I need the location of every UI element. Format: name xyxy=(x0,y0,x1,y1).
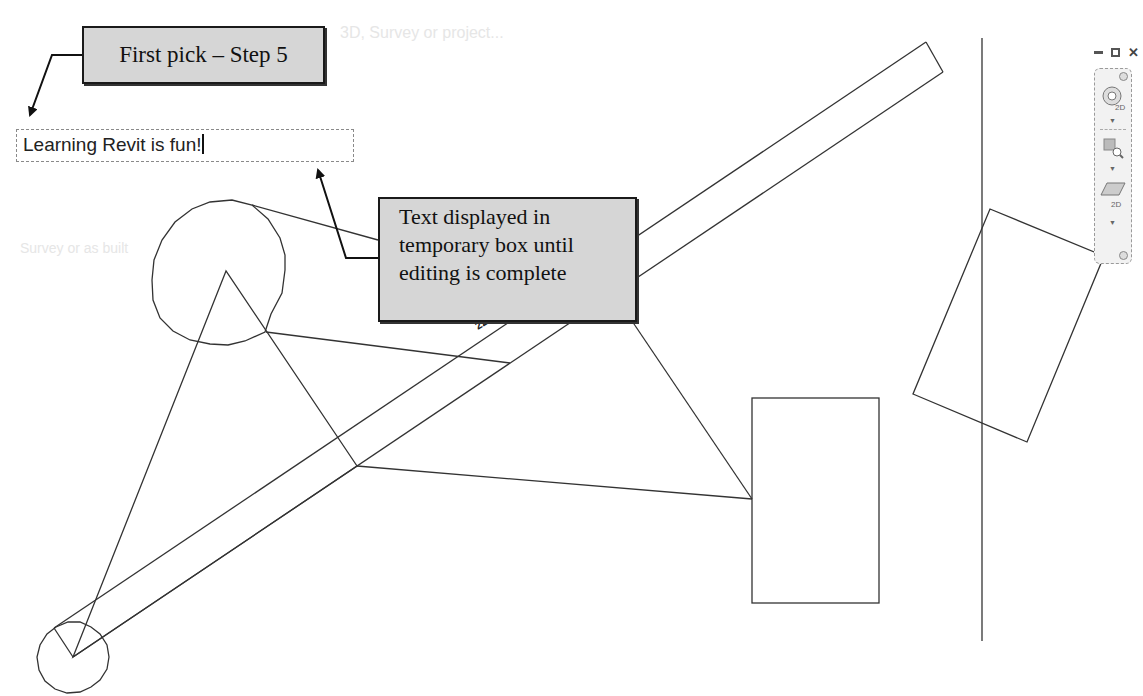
close-icon[interactable]: ✕ xyxy=(1128,45,1139,60)
large-circle[interactable] xyxy=(152,200,285,345)
nav-bar-grip-bottom[interactable] xyxy=(1119,251,1128,260)
svg-text:2D: 2D xyxy=(1111,200,1121,209)
text-box-value: Learning Revit is fun! xyxy=(23,134,202,155)
callout-1-leader xyxy=(30,55,82,115)
wall-end-cap[interactable] xyxy=(926,42,943,72)
svg-text:2D: 2D xyxy=(1115,103,1125,112)
temporary-text-box[interactable]: Learning Revit is fun! xyxy=(16,129,354,162)
steering-wheel-2d-icon[interactable]: 2D xyxy=(1099,83,1127,113)
callout-line: Text displayed in xyxy=(399,203,635,231)
callout-2-leader xyxy=(318,170,378,258)
zoom-region-icon[interactable] xyxy=(1099,135,1127,161)
connector-line-4[interactable] xyxy=(632,321,752,499)
restore-icon[interactable] xyxy=(1111,48,1120,57)
connector-line-2[interactable] xyxy=(266,332,510,363)
small-circle-radius xyxy=(54,628,73,657)
nav-separator xyxy=(1100,129,1126,130)
connector-line-3[interactable] xyxy=(357,466,752,499)
navigation-bar: 2D ▼ ▼ 2D ▼ xyxy=(1094,68,1132,264)
rotated-rectangle[interactable] xyxy=(913,209,1104,442)
view-window-controls: ✕ xyxy=(1094,44,1139,60)
callout-line: editing is complete xyxy=(399,259,635,287)
text-caret xyxy=(202,134,204,154)
nav-bar-grip-top[interactable] xyxy=(1119,72,1128,81)
drawing-canvas[interactable]: 22.6 xyxy=(0,0,1143,696)
pan-2d-icon[interactable]: 2D xyxy=(1099,177,1127,213)
zoom-dropdown[interactable]: ▼ xyxy=(1109,165,1116,172)
callout-temporary-box: Text displayed in temporary box until ed… xyxy=(378,197,637,322)
minimize-icon[interactable] xyxy=(1094,51,1103,54)
callout-first-pick: First pick – Step 5 xyxy=(82,26,325,84)
callout-line: temporary box until xyxy=(399,231,635,259)
triangle[interactable] xyxy=(73,271,357,657)
pan-dropdown[interactable]: ▼ xyxy=(1109,219,1116,226)
callout-first-pick-text: First pick – Step 5 xyxy=(119,42,288,68)
steering-wheel-dropdown[interactable]: ▼ xyxy=(1109,117,1116,124)
rectangle[interactable] xyxy=(752,398,879,603)
